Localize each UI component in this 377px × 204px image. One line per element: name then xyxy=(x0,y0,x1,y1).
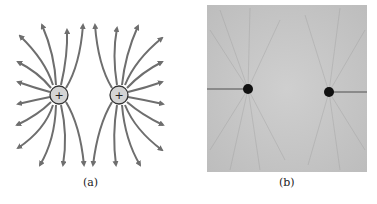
caption-b: (b) xyxy=(279,176,295,189)
panel-b-field-photo: (b) xyxy=(190,0,377,204)
photo-charge-left xyxy=(243,84,253,94)
charge-left: + xyxy=(50,86,68,104)
svg-text:+: + xyxy=(54,89,63,102)
photo-svg xyxy=(190,0,377,204)
photo-charge-right xyxy=(324,87,334,97)
panel-a-field-line-diagram: + + (a) xyxy=(0,0,190,204)
field-lines-svg: + + xyxy=(0,0,190,204)
charge-right: + xyxy=(110,86,128,104)
field-lines xyxy=(17,25,163,165)
svg-text:+: + xyxy=(114,89,123,102)
caption-a: (a) xyxy=(83,176,98,189)
